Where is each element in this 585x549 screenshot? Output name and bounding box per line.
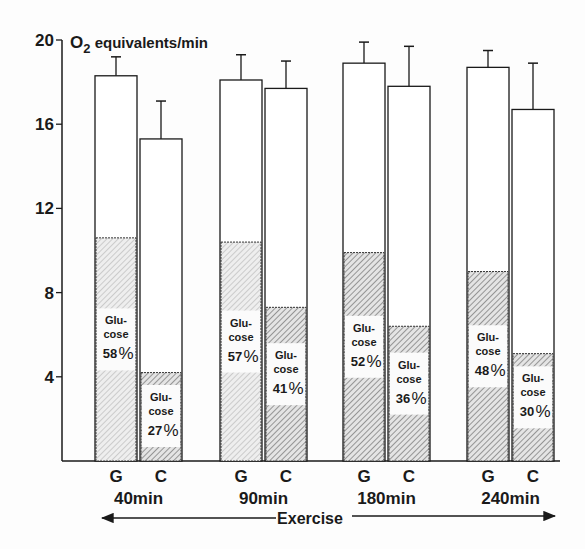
x-tick-label: 240min <box>481 489 540 508</box>
y-tick-label: 4 <box>45 368 55 387</box>
glucose-label-line1: Glu- <box>398 359 420 371</box>
bar-letter-label: C <box>527 467 539 486</box>
bar-letter-label: C <box>280 467 292 486</box>
bar-letter-label: C <box>403 467 415 486</box>
y-tick-label: 12 <box>35 199 54 218</box>
y-tick-label: 20 <box>35 31 54 50</box>
glucose-label-line2: cose <box>351 336 376 348</box>
glucose-label-line2: cose <box>148 405 173 417</box>
x-tick-label: 40min <box>114 489 163 508</box>
glucose-pct-value: 48 <box>475 363 489 378</box>
bar-letter-label: G <box>234 467 247 486</box>
y-ticks: 48121620 <box>35 31 62 387</box>
y-tick-label: 16 <box>35 115 54 134</box>
glucose-pct-value: 30 <box>520 404 534 419</box>
x-tick-label: 180min <box>357 489 416 508</box>
glucose-label-line2: cose <box>396 373 421 385</box>
glucose-label-line2: cose <box>475 345 500 357</box>
bar-letter-label: G <box>481 467 494 486</box>
glucose-label-line1: Glu- <box>522 372 544 384</box>
glucose-pct-sign: % <box>288 379 303 398</box>
glucose-pct-sign: % <box>163 421 178 440</box>
glucose-label-line1: Glu- <box>353 322 375 334</box>
glucose-label-line2: cose <box>273 363 298 375</box>
glucose-pct-sign: % <box>118 344 133 363</box>
glucose-pct-value: 58 <box>103 346 117 361</box>
glucose-label-line2: cose <box>103 328 128 340</box>
glucose-pct-value: 52 <box>351 354 365 369</box>
x-axis-title: Exercise <box>277 510 343 527</box>
y-axis-label: O2 equivalents/min <box>70 33 208 56</box>
y-axis-label-rest: equivalents/min <box>90 34 208 51</box>
bar-letter-label: C <box>155 467 167 486</box>
glucose-pct-sign: % <box>243 347 258 366</box>
bar-letter-label: G <box>109 467 122 486</box>
glucose-label-line2: cose <box>228 331 253 343</box>
glucose-pct-sign: % <box>411 389 426 408</box>
bar-letter-label: G <box>357 467 370 486</box>
x-tick-label: 90min <box>239 489 288 508</box>
glucose-pct-sign: % <box>535 402 550 421</box>
y-tick-label: 8 <box>45 284 54 303</box>
glucose-label-line1: Glu- <box>275 349 297 361</box>
glucose-label-line1: Glu- <box>105 314 127 326</box>
glucose-label-line1: Glu- <box>150 391 172 403</box>
glucose-pct-sign: % <box>490 361 505 380</box>
glucose-pct-value: 36 <box>396 391 410 406</box>
glucose-pct-value: 27 <box>148 423 162 438</box>
y-axis-label-main: O <box>70 33 83 52</box>
glucose-label-line1: Glu- <box>230 317 252 329</box>
bars: Glu-cose58%Glu-cose27%Glu-cose57%Glu-cos… <box>95 42 554 461</box>
glucose-pct-sign: % <box>366 352 381 371</box>
glucose-pct-value: 41 <box>273 381 287 396</box>
glucose-label-line2: cose <box>520 386 545 398</box>
glucose-label-line1: Glu- <box>477 331 499 343</box>
x-labels: GC40minGC90minGC180minGC240min <box>109 467 539 508</box>
chart: 48121620 O2 equivalents/min Glu-cose58%G… <box>0 0 585 549</box>
glucose-pct-value: 57 <box>228 349 242 364</box>
y-axis-label-sub: 2 <box>83 41 90 56</box>
